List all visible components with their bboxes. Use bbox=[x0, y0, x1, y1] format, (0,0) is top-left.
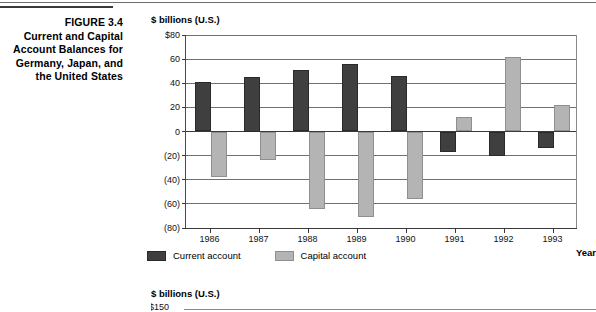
caption-line-3: Account Balances for bbox=[0, 43, 123, 57]
x-tick-label-1987: 1987 bbox=[235, 234, 283, 244]
bar-current-1987 bbox=[244, 77, 260, 131]
bar-capital-1990 bbox=[407, 132, 423, 200]
x-tick-mark-1993 bbox=[553, 229, 554, 233]
y-tick-label--80: (80) bbox=[136, 223, 180, 233]
x-tick-label-1991: 1991 bbox=[431, 234, 479, 244]
bar-chart: $ billions (U.S.) $806040200(20)(40)(60)… bbox=[137, 14, 596, 264]
caption-line-4: Germany, Japan, and bbox=[0, 57, 123, 71]
bar-current-1993 bbox=[538, 132, 554, 149]
x-tick-mark-1992 bbox=[504, 229, 505, 233]
y-tick-mark-40 bbox=[182, 83, 186, 84]
y-tick-label--40: (40) bbox=[136, 175, 180, 185]
page-top-rule bbox=[0, 2, 596, 3]
gridline-80 bbox=[186, 35, 576, 36]
figure-caption: FIGURE 3.4 Current and Capital Account B… bbox=[0, 16, 123, 84]
y-tick-label--20: (20) bbox=[136, 151, 180, 161]
x-tick-mark-1987 bbox=[259, 229, 260, 233]
y-tick-mark--20 bbox=[182, 155, 186, 156]
legend-item-capital-account: Capital account bbox=[275, 250, 366, 261]
x-tick-label-1988: 1988 bbox=[284, 234, 332, 244]
next-chart-first-ytick: $150 bbox=[151, 302, 169, 312]
x-tick-mark-1989 bbox=[357, 229, 358, 233]
x-tick-label-1990: 1990 bbox=[382, 234, 430, 244]
y-axis-unit-label: $ billions (U.S.) bbox=[151, 14, 220, 25]
caption-line-1: FIGURE 3.4 bbox=[0, 16, 123, 30]
gridline--40 bbox=[186, 179, 576, 180]
y-tick-mark--40 bbox=[182, 179, 186, 180]
bar-current-1988 bbox=[293, 70, 309, 132]
caption-top-rule bbox=[0, 6, 113, 8]
bar-capital-1992 bbox=[505, 57, 521, 132]
y-tick-label-20: 20 bbox=[136, 102, 180, 112]
bar-capital-1988 bbox=[309, 132, 325, 209]
plot-area: $806040200(20)(40)(60)(80) bbox=[185, 35, 577, 228]
y-tick-label-60: 60 bbox=[136, 54, 180, 64]
x-tick-mark-1990 bbox=[406, 229, 407, 233]
next-chart-top-gridline bbox=[184, 309, 596, 310]
bar-current-1992 bbox=[489, 132, 505, 156]
legend-item-current-account: Current account bbox=[147, 250, 241, 261]
x-axis-label: Year bbox=[576, 247, 596, 258]
bar-current-1989 bbox=[342, 64, 358, 132]
legend-swatch-capital-account bbox=[275, 251, 294, 261]
bar-capital-1993 bbox=[554, 105, 570, 132]
bar-capital-1986 bbox=[211, 132, 227, 178]
caption-line-5: the United States bbox=[0, 70, 123, 84]
x-tick-mark-1986 bbox=[210, 229, 211, 233]
x-axis-line bbox=[185, 228, 577, 229]
legend-label-capital-account: Capital account bbox=[301, 250, 366, 261]
bar-current-1990 bbox=[391, 76, 407, 131]
x-tick-label-1989: 1989 bbox=[333, 234, 381, 244]
y-tick-mark-80 bbox=[182, 35, 186, 36]
bar-current-1991 bbox=[440, 132, 456, 153]
y-tick-label-0: 0 bbox=[136, 127, 180, 137]
x-tick-mark-1991 bbox=[455, 229, 456, 233]
figure-page: FIGURE 3.4 Current and Capital Account B… bbox=[0, 0, 596, 312]
caption-line-2: Current and Capital bbox=[0, 30, 123, 44]
y-tick-label--60: (60) bbox=[136, 199, 180, 209]
next-chart-fragment: $ billions (U.S.) $150 bbox=[151, 288, 596, 312]
y-tick-mark-20 bbox=[182, 107, 186, 108]
bar-capital-1987 bbox=[260, 132, 276, 161]
chart-legend: Current account Capital account bbox=[147, 250, 366, 261]
gridline--60 bbox=[186, 203, 576, 204]
gridline--20 bbox=[186, 155, 576, 156]
x-tick-mark-1988 bbox=[308, 229, 309, 233]
next-chart-unit-label: $ billions (U.S.) bbox=[151, 288, 220, 299]
x-tick-label-1986: 1986 bbox=[186, 234, 234, 244]
bar-current-1986 bbox=[195, 82, 211, 131]
y-tick-mark-60 bbox=[182, 59, 186, 60]
y-tick-mark-0 bbox=[182, 131, 186, 132]
x-tick-label-1993: 1993 bbox=[529, 234, 577, 244]
bar-capital-1991 bbox=[456, 117, 472, 131]
y-tick-label-40: 40 bbox=[136, 78, 180, 88]
y-tick-mark--60 bbox=[182, 203, 186, 204]
legend-label-current-account: Current account bbox=[173, 250, 241, 261]
x-tick-label-1992: 1992 bbox=[480, 234, 528, 244]
y-tick-label-80: $80 bbox=[136, 30, 180, 40]
legend-swatch-current-account bbox=[147, 251, 166, 261]
bar-capital-1989 bbox=[358, 132, 374, 218]
